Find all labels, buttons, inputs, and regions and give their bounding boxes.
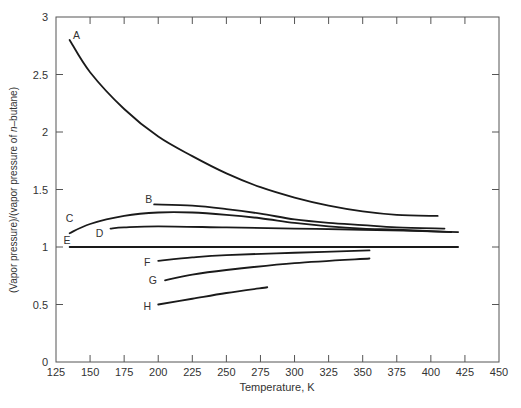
curve-a [70,40,438,216]
curve-label-d: D [96,227,104,239]
y-tick-label: 1.5 [33,184,48,196]
y-axis-label: (Vapor pressure)/(vapor pressure of n–bu… [8,87,19,293]
curve-f [158,250,369,260]
x-tick-label: 325 [319,366,337,378]
curves [70,40,458,305]
curve-label-e: E [63,234,70,246]
x-tick-label: 375 [388,366,406,378]
x-tick-label: 425 [456,366,474,378]
y-tick-label: 1 [42,241,48,253]
curve-b [154,204,444,228]
x-tick-label: 200 [149,366,167,378]
x-tick-label: 275 [251,366,269,378]
curve-label-f: F [144,256,150,268]
x-tick-label: 225 [183,366,201,378]
y-tick-label: 2 [42,126,48,138]
plot-border [56,17,499,362]
curve-labels: ABCDEFGH [63,29,156,311]
curve-label-g: G [149,274,157,286]
x-tick-label: 150 [81,366,99,378]
x-tick-label: 400 [422,366,440,378]
curve-label-h: H [144,300,152,312]
chart: 1251501752002252502753003253503754004254… [0,0,521,408]
y-tick-label: 3 [42,11,48,23]
curve-h [158,287,267,304]
curve-label-b: B [145,193,152,205]
x-axis-ticks: 1251501752002252502753003253503754004254… [47,17,508,378]
y-tick-label: 0.5 [33,299,48,311]
x-tick-label: 300 [285,366,303,378]
x-tick-label: 450 [490,366,508,378]
curve-label-c: C [66,212,74,224]
y-tick-label: 0 [42,356,48,368]
curve-label-a: A [73,29,80,41]
plot-frame [56,17,499,362]
x-tick-label: 175 [115,366,133,378]
x-tick-label: 250 [217,366,235,378]
x-axis-label: Temperature, K [239,381,315,393]
x-tick-label: 125 [47,366,65,378]
curve-g [165,259,369,281]
y-tick-label: 2.5 [33,69,48,81]
x-tick-label: 350 [354,366,372,378]
